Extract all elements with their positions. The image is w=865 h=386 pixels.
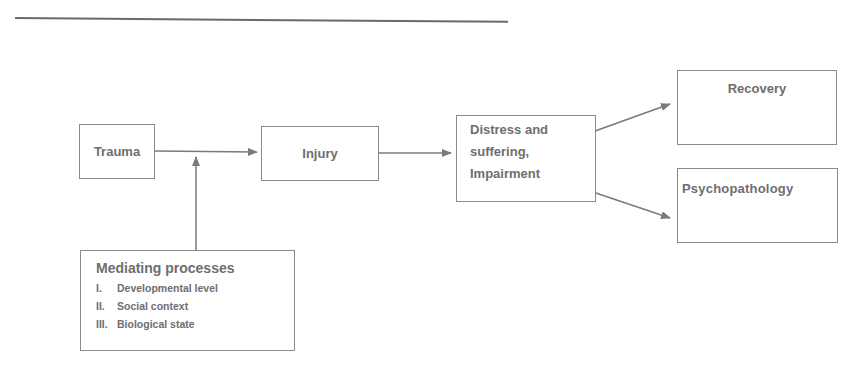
node-mediating-processes: Mediating processes I. Developmental lev… [80,250,295,351]
node-psychopathology: Psychopathology [677,168,838,243]
mediating-item: III. Biological state [96,315,294,333]
node-recovery-label: Recovery [728,81,787,96]
mediating-item: I. Developmental level [96,279,294,297]
node-injury-label: Injury [302,146,337,161]
mediating-title: Mediating processes [96,260,294,276]
node-distress-line-3: Impairment [470,163,595,185]
node-trauma: Trauma [79,124,155,179]
mediating-item-number: III. [96,315,117,333]
mediating-item-number: II. [96,297,117,315]
mediating-item: II. Social context [96,297,294,315]
node-distress-line-1: Distress and [470,119,595,141]
node-distress-line-2: suffering, [470,141,595,163]
mediating-item-label: Biological state [117,315,195,333]
mediating-item-label: Developmental level [117,279,218,297]
arrow-distress-recovery [584,104,670,135]
mediating-item-number: I. [96,279,117,297]
node-distress: Distress and suffering, Impairment [456,115,596,202]
arrow-trauma-injury [155,151,257,152]
node-trauma-label: Trauma [94,144,140,159]
node-injury: Injury [261,126,379,181]
node-recovery: Recovery [677,70,837,145]
mediating-item-label: Social context [117,297,188,315]
node-psychopathology-label: Psychopathology [682,181,793,196]
